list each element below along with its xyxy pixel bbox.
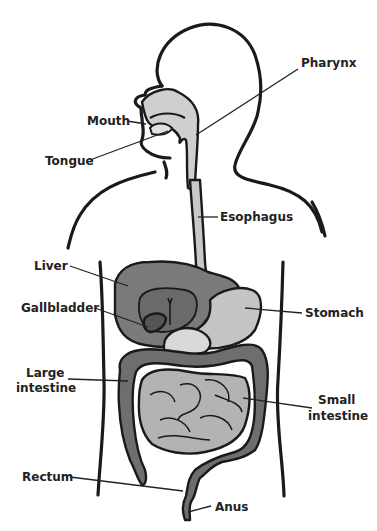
leader-anus	[188, 506, 211, 512]
label-stomach: Stomach	[305, 306, 364, 320]
label-large-intestine-line1: Large	[26, 366, 64, 380]
leader-pharynx	[196, 69, 298, 135]
small-intestine-organ	[139, 370, 250, 454]
digestive-system-diagram: Pharynx Mouth Tongue Esophagus Liver Gal…	[0, 0, 377, 531]
neck-front	[164, 162, 167, 178]
right-torso	[277, 262, 284, 496]
label-small-intestine-line1: Small	[318, 393, 355, 407]
left-torso	[98, 262, 104, 495]
pharynx-organ	[142, 89, 198, 190]
label-esophagus: Esophagus	[220, 210, 293, 224]
label-tongue: Tongue	[45, 154, 94, 168]
right-shoulder	[312, 202, 325, 236]
label-anus: Anus	[215, 500, 249, 514]
label-pharynx: Pharynx	[301, 56, 357, 70]
label-rectum: Rectum	[22, 470, 73, 484]
label-liver: Liver	[34, 259, 68, 273]
label-large-intestine-line2: intestine	[16, 381, 76, 395]
leader-rectum	[70, 477, 183, 491]
label-gallbladder: Gallbladder	[21, 301, 99, 315]
label-mouth: Mouth	[87, 114, 130, 128]
label-small-intestine-line2: intestine	[308, 409, 368, 423]
left-shoulder	[68, 172, 155, 248]
